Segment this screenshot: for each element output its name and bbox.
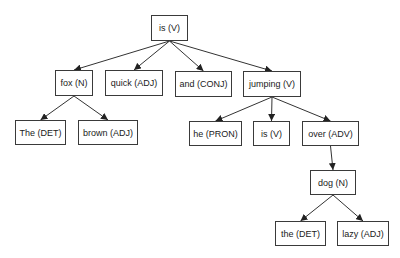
edge-dog-to-lazy	[333, 195, 363, 221]
edge-is_root-to-quick	[134, 41, 170, 70]
edge-is_root-to-fox	[74, 41, 170, 70]
node-and: and (CONJ)	[175, 71, 232, 97]
node-brown: brown (ADJ)	[78, 120, 138, 145]
edge-fox-to-brown	[74, 96, 108, 120]
node-dog: dog (N)	[310, 170, 356, 195]
node-quick: quick (ADJ)	[105, 70, 163, 96]
node-he: he (PRON)	[189, 121, 242, 146]
node-fox: fox (N)	[55, 70, 93, 96]
node-the-lower: the (DET)	[275, 221, 326, 246]
node-is-sub: is (V)	[253, 121, 290, 146]
edge-fox-to-the1	[41, 96, 75, 120]
edge-jumping-to-is2	[272, 97, 273, 121]
node-over: over (ADV)	[302, 121, 359, 146]
edge-is_root-to-jumping	[170, 41, 273, 71]
edge-dog-to-the2	[301, 195, 334, 221]
edge-jumping-to-over	[272, 97, 331, 121]
node-jumping: jumping (V)	[243, 71, 301, 97]
edge-jumping-to-he	[216, 97, 273, 121]
node-lazy: lazy (ADJ)	[337, 221, 389, 246]
node-the-upper: The (DET)	[15, 120, 66, 145]
edge-over-to-dog	[331, 146, 334, 170]
node-is-root: is (V)	[151, 15, 188, 41]
